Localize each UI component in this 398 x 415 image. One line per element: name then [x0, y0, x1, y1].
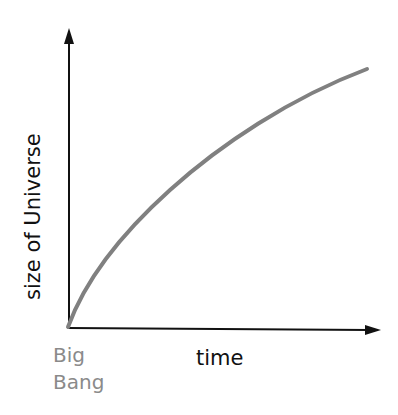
x-axis	[68, 328, 370, 330]
y-axis-label: size of Universe	[21, 133, 45, 300]
growth-curve	[68, 69, 367, 327]
x-axis-label: time	[196, 346, 243, 370]
origin-label-line1: Big	[53, 343, 85, 367]
y-axis-arrowhead-icon	[64, 28, 74, 44]
diagram-canvas: size of Universe time Big Bang	[0, 0, 398, 415]
x-axis-arrowhead-icon	[365, 325, 381, 335]
origin-label-line2: Bang	[53, 370, 104, 394]
